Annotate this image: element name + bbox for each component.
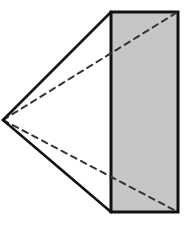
solid-edge-bottom xyxy=(3,120,111,212)
diagram-canvas xyxy=(0,0,193,227)
solid-edge-top xyxy=(3,12,111,120)
pyramid-rectangle-figure xyxy=(0,0,193,227)
apex-vertex xyxy=(2,119,5,122)
